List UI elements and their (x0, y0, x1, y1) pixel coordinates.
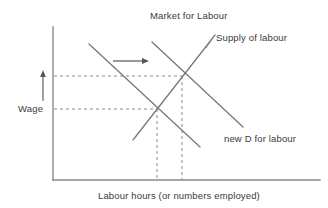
supply-label-leader (206, 35, 215, 48)
demand-shift-arrow-head (142, 58, 149, 64)
supply-curve (133, 35, 215, 140)
wage-direction-arrow-head (40, 70, 46, 77)
y-axis-label: Wage (18, 104, 43, 114)
chart-title: Market for Labour (150, 11, 228, 21)
new-demand-curve-label: new D for labour (224, 134, 296, 144)
supply-curve-label: Supply of labour (216, 33, 287, 43)
x-axis-label: Labour hours (or numbers employed) (98, 191, 260, 201)
labour-market-diagram: Market for Labour Supply of labour new D… (0, 0, 328, 208)
